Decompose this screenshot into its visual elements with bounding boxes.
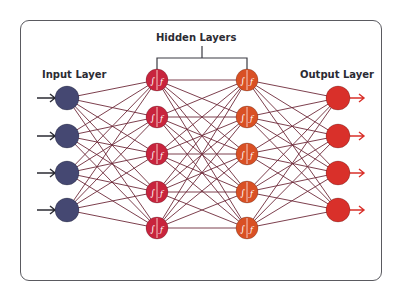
connection-edge [67,173,157,228]
output-arrow-icon [350,169,364,177]
output-arrow-icon [350,94,364,102]
input-arrow-icon [37,94,55,102]
output-node [326,124,350,148]
input-arrow-icon [37,132,55,140]
input-arrow-icon [37,169,55,177]
connection-edge [247,98,338,228]
connection-edge [67,80,157,173]
output-node [326,86,350,110]
connection-edge [67,80,157,210]
summation-icon: ∫ [240,150,245,160]
output-node [326,198,350,222]
summation-icon: ∫ [240,76,245,86]
connection-edge [247,210,338,228]
input-node [55,124,79,148]
hidden-2-node: ∫ƒ [236,217,258,239]
connection-edge [247,98,338,192]
hidden-1-layer: ∫ƒ∫ƒ∫ƒ∫ƒ∫ƒ [146,69,168,239]
hidden-1-node: ∫ƒ [146,106,168,128]
neural-network-diagram: Input Layer Hidden Layers Output Layer ∫… [0,0,402,295]
input-node [55,198,79,222]
summation-icon: ∫ [240,224,245,234]
connection-edge [247,173,338,228]
hidden-1-node: ∫ƒ [146,181,168,203]
hidden-2-layer: ∫ƒ∫ƒ∫ƒ∫ƒ∫ƒ [236,69,258,239]
connection-edge [67,210,157,228]
output-arrow-icon [350,132,364,140]
input-arrow-icon [37,206,55,214]
output-arrow-icon [350,206,364,214]
input-node [55,161,79,185]
summation-icon: ∫ [150,76,155,86]
input-node [55,86,79,110]
connections [67,80,338,228]
summation-icon: ∫ [150,150,155,160]
input-layer [55,86,79,222]
hidden-2-node: ∫ƒ [236,69,258,91]
connection-edge [247,80,338,98]
output-layer [326,86,350,222]
connection-edge [247,80,338,136]
summation-icon: ∫ [150,113,155,123]
hidden-2-node: ∫ƒ [236,181,258,203]
connection-edge [67,80,157,98]
summation-icon: ∫ [150,224,155,234]
output-node [326,161,350,185]
hidden-1-node: ∫ƒ [146,217,168,239]
network-graph: ∫ƒ∫ƒ∫ƒ∫ƒ∫ƒ∫ƒ∫ƒ∫ƒ∫ƒ∫ƒ [0,0,402,295]
connection-edge [67,80,157,136]
summation-icon: ∫ [240,188,245,198]
summation-icon: ∫ [150,188,155,198]
summation-icon: ∫ [240,113,245,123]
hidden-1-node: ∫ƒ [146,143,168,165]
connection-edge [67,192,157,210]
connection-edge [67,117,157,210]
hidden-2-node: ∫ƒ [236,106,258,128]
hidden-2-node: ∫ƒ [236,143,258,165]
connection-edge [247,98,338,117]
connection-edge [247,136,338,228]
hidden-layers-bracket [157,46,247,69]
hidden-1-node: ∫ƒ [146,69,168,91]
